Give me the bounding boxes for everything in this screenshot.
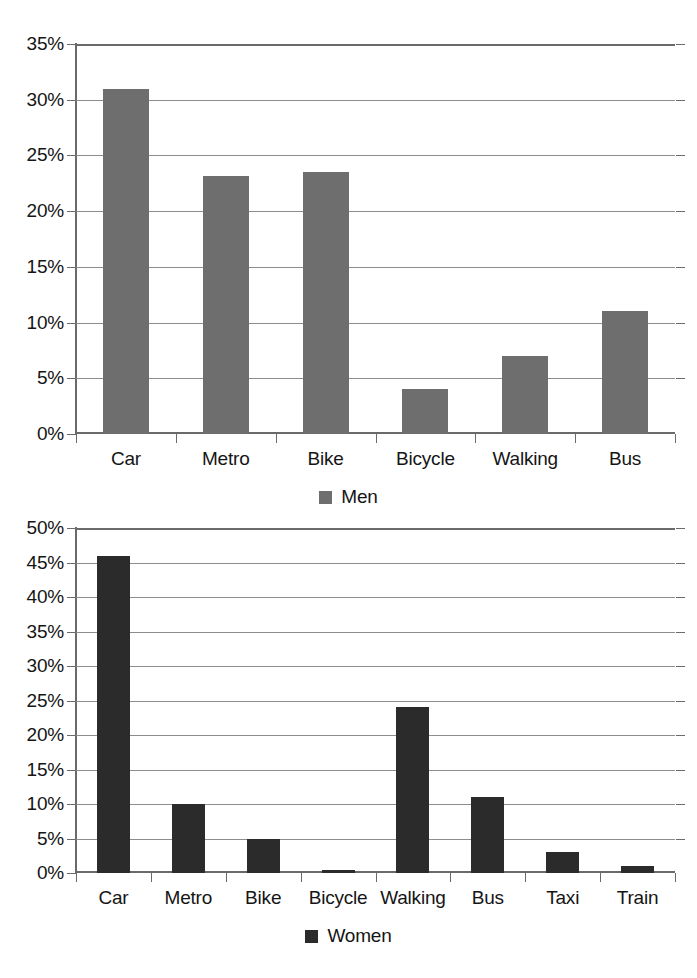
bar [203, 176, 249, 435]
bar-slot [525, 528, 600, 873]
x-axis-tick-label: Bicycle [375, 448, 475, 470]
x-axis-tick [151, 873, 152, 882]
y-axis-tick-right [676, 211, 685, 212]
x-axis-tick-label: Metro [176, 448, 276, 470]
x-axis-tick-label: Taxi [525, 887, 600, 909]
legend-label-men: Men [341, 486, 377, 508]
bar-slot [276, 44, 376, 434]
x-axis-tick-label: Car [76, 448, 176, 470]
figure-two-bar-charts: 0%5%10%15%20%25%30%35% CarMetroBikeBicyc… [0, 0, 697, 978]
bar-slot [600, 528, 675, 873]
y-axis-tick [67, 323, 76, 324]
x-axis-tick [675, 434, 676, 443]
y-axis-tick [67, 839, 76, 840]
bar [602, 311, 648, 434]
y-axis-tick [67, 804, 76, 805]
bar [621, 866, 654, 873]
bar-slot [575, 44, 675, 434]
y-axis-tick [67, 528, 76, 529]
legend-swatch-icon [305, 930, 318, 943]
x-axis-tick-label: Bicycle [301, 887, 376, 909]
y-axis-tick [67, 434, 76, 435]
bar-slot [226, 528, 301, 873]
y-axis-tick-label: 0% [37, 423, 64, 445]
y-axis-tick-right [676, 100, 685, 101]
y-axis-tick-label: 0% [37, 862, 64, 884]
y-axis-tick-right [676, 267, 685, 268]
bar [247, 839, 280, 874]
y-axis-tick [67, 632, 76, 633]
x-axis-tick-label: Metro [151, 887, 226, 909]
y-axis-tick [67, 770, 76, 771]
y-axis-tick-right [676, 735, 685, 736]
x-axis-tick-label: Bus [575, 448, 675, 470]
y-axis-tick-label: 30% [27, 89, 64, 111]
y-axis-tick-label: 25% [27, 690, 64, 712]
y-axis-tick [67, 597, 76, 598]
y-axis-tick-right [676, 839, 685, 840]
y-axis-labels-women: 0%5%10%15%20%25%30%35%40%45%50% [0, 508, 76, 933]
y-axis-tick [67, 666, 76, 667]
legend-women: Women [0, 925, 697, 947]
y-axis-tick-label: 30% [27, 655, 64, 677]
bar [103, 89, 149, 434]
bar-slot [76, 528, 151, 873]
y-axis-tick-right [676, 323, 685, 324]
x-axis-tick [76, 434, 77, 443]
y-axis-tick-label: 50% [27, 517, 64, 539]
y-axis-tick-label: 20% [27, 200, 64, 222]
x-axis-tick [376, 873, 377, 882]
bar [502, 356, 548, 434]
y-axis-tick-label: 35% [27, 33, 64, 55]
x-axis-tick [226, 873, 227, 882]
bar-slot [76, 44, 176, 434]
bar [172, 804, 205, 873]
y-axis-tick-right [676, 528, 685, 529]
y-axis-tick-label: 25% [27, 144, 64, 166]
y-axis-tick [67, 100, 76, 101]
chart-women: 0%5%10%15%20%25%30%35%40%45%50% CarMetro… [0, 508, 697, 933]
y-axis-tick-right [676, 632, 685, 633]
x-axis-tick [376, 434, 377, 443]
figure-caption-cutoff [0, 960, 697, 978]
y-axis-tick-right [676, 155, 685, 156]
y-axis-tick-right [676, 701, 685, 702]
y-axis-tick [67, 44, 76, 45]
bar [97, 556, 130, 873]
x-axis-tick [76, 873, 77, 882]
legend-swatch-icon [319, 491, 332, 504]
x-axis-tick-label: Bike [276, 448, 376, 470]
y-axis-tick-label: 10% [27, 312, 64, 334]
y-axis-tick [67, 211, 76, 212]
bar [303, 172, 349, 434]
bar-slot [151, 528, 226, 873]
bar-slot [375, 44, 475, 434]
bar [546, 852, 579, 873]
bar-slot [301, 528, 376, 873]
y-axis-tick [67, 378, 76, 379]
bar-slot [176, 44, 276, 434]
y-axis-tick-right [676, 378, 685, 379]
legend-label-women: Women [327, 925, 391, 947]
plot-area-women [76, 528, 675, 873]
bar-group-men [76, 44, 675, 434]
chart-men: 0%5%10%15%20%25%30%35% CarMetroBikeBicyc… [0, 24, 697, 494]
x-axis-tick-label: Car [76, 887, 151, 909]
y-axis-tick-right [676, 597, 685, 598]
bar-slot [475, 44, 575, 434]
x-axis-tick [575, 434, 576, 443]
bar-group-women [76, 528, 675, 873]
y-axis-tick-right [676, 563, 685, 564]
x-axis-tick [450, 873, 451, 882]
y-axis-tick-label: 20% [27, 724, 64, 746]
y-axis-labels-men: 0%5%10%15%20%25%30%35% [0, 24, 76, 494]
y-axis-tick-label: 40% [27, 586, 64, 608]
bar [471, 797, 504, 873]
y-axis-tick-right [676, 770, 685, 771]
x-axis-ticks-women [76, 873, 675, 882]
y-axis-tick-label: 45% [27, 552, 64, 574]
y-axis-tick-label: 15% [27, 256, 64, 278]
x-axis-tick [176, 434, 177, 443]
x-axis-tick [600, 873, 601, 882]
x-axis-tick-label: Walking [475, 448, 575, 470]
